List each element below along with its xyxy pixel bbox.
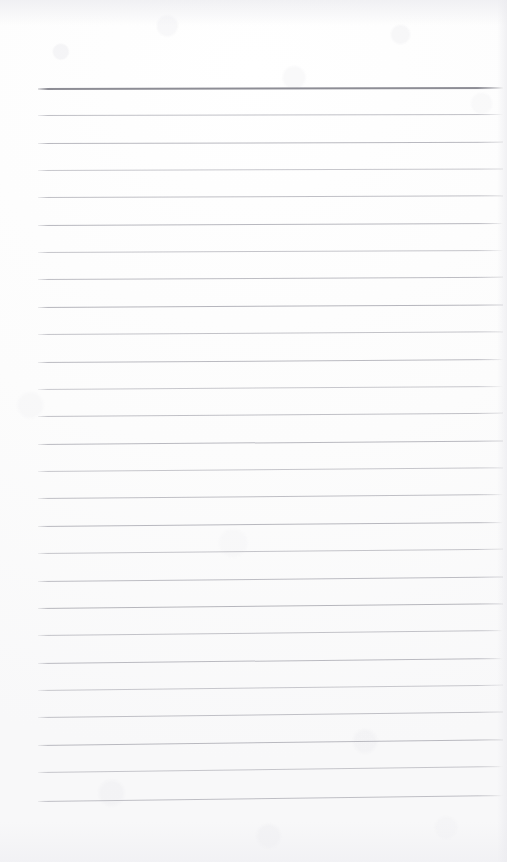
rule-line <box>38 658 503 664</box>
rule-line <box>38 739 503 746</box>
rule-line <box>38 359 503 363</box>
rule-line <box>38 304 503 308</box>
rule-line <box>38 195 503 198</box>
rule-line <box>38 630 503 636</box>
rule-line <box>38 467 503 472</box>
rule-line <box>38 603 503 609</box>
rule-line <box>38 331 503 335</box>
rule-line <box>38 712 503 718</box>
rule-line <box>38 114 503 116</box>
rule-line <box>38 577 503 582</box>
rule-line <box>38 277 503 280</box>
rule-line <box>38 441 503 445</box>
rule-line <box>38 522 503 527</box>
header-rule-line <box>38 87 503 90</box>
ruled-lines-group <box>0 0 507 862</box>
rule-line <box>38 168 503 171</box>
rule-line <box>38 795 503 802</box>
rule-line <box>38 223 503 226</box>
rule-line <box>38 413 503 417</box>
rule-line <box>38 549 503 554</box>
rule-line <box>38 766 503 773</box>
rule-line <box>38 142 503 144</box>
rule-line <box>38 250 503 253</box>
rule-line <box>38 685 503 691</box>
rule-line <box>38 494 503 499</box>
rule-line <box>38 386 503 390</box>
scanned-page <box>0 0 507 862</box>
